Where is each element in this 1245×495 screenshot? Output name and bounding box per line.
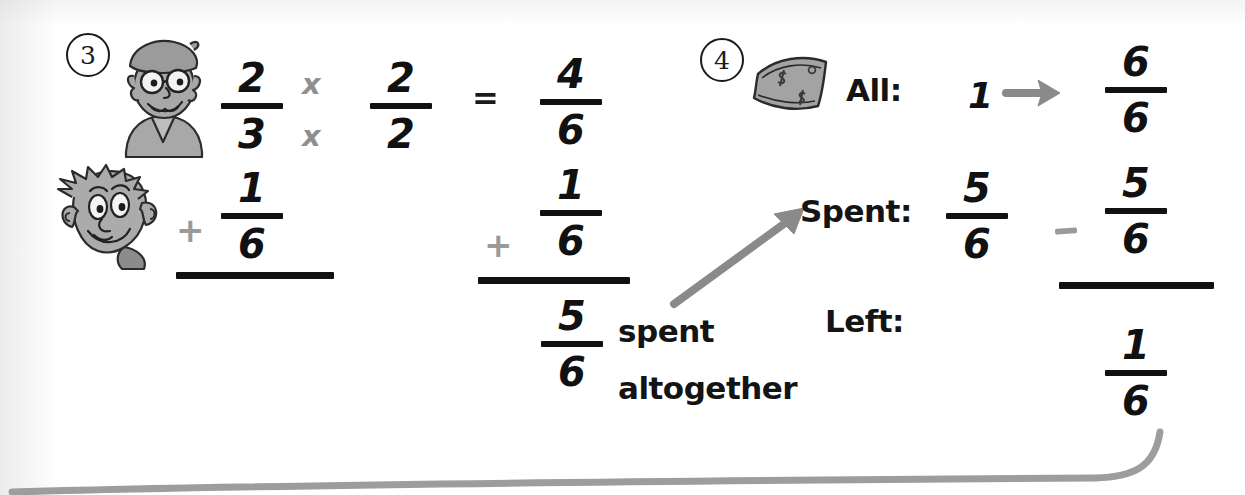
annotation-spent: spent [618,315,714,348]
plus-symbol-right: + [484,228,513,262]
fraction-numerator: 1 [1120,325,1152,365]
fraction-4-over-6: 4 6 [540,54,602,150]
fraction-bar [541,341,603,347]
fraction-bar [221,103,283,109]
fraction-denominator: 6 [961,224,993,264]
worksheet-page: 3 [0,0,1245,495]
curved-gray-swoosh-line [0,400,1245,495]
fraction-sum-5-over-6: 5 6 [541,296,603,392]
fraction-2-over-3: 2 3 [221,58,283,154]
scan-noise-top [0,0,1245,26]
multiply-symbol-bottom: x [302,122,321,151]
fraction-2-over-2: 2 2 [370,58,432,154]
fraction-numerator: 2 [236,58,268,98]
fraction-1-over-6-right: 1 6 [540,165,602,261]
fraction-bar [540,210,602,216]
fraction-denominator: 2 [385,114,417,154]
fraction-bar [540,99,602,105]
fraction-denominator: 6 [236,224,268,264]
fraction-1-over-6-left: 1 6 [221,168,283,264]
fraction-numerator: 1 [236,168,268,208]
fraction-6-over-6: 6 6 [1105,42,1167,138]
fraction-bar [221,213,283,219]
fraction-bar [1105,208,1167,214]
fraction-denominator: 6 [555,221,587,261]
label-left: Left: [825,305,904,338]
problem-number-3-label: 3 [80,43,96,68]
label-all: All: [846,74,902,107]
label-spent: Spent: [800,195,912,228]
fraction-denominator: 6 [556,352,588,392]
problem-number-4: 4 [700,38,744,82]
fraction-bar [946,213,1008,219]
sum-rule-left [176,272,334,279]
plus-symbol-left: + [176,213,205,247]
right-arrow-icon [1004,72,1068,112]
fraction-subtract-5-over-6: 5 6 [1105,163,1167,259]
problem-number-3: 3 [66,33,110,77]
fraction-numerator: 4 [555,54,587,94]
fraction-numerator: 6 [1120,42,1152,82]
equals-symbol: = [472,82,499,114]
annotation-arrow-icon [668,198,818,310]
fraction-numerator: 5 [961,168,993,208]
fraction-denominator: 3 [236,114,268,154]
difference-rule [1059,282,1214,289]
fraction-denominator: 6 [555,110,587,150]
fraction-bar [1105,87,1167,93]
fraction-bar [1105,370,1167,376]
sum-rule-right [478,277,630,284]
fraction-numerator: 2 [385,58,417,98]
fraction-bar [370,103,432,109]
fraction-denominator: 6 [1120,98,1152,138]
fraction-numerator: 5 [1120,163,1152,203]
fraction-numerator: 5 [556,296,588,336]
minus-symbol [1055,227,1077,235]
multiply-symbol-top: x [302,70,321,99]
fraction-numerator: 1 [555,165,587,205]
fraction-denominator: 6 [1120,219,1152,259]
bearded-man-with-beret-icon [112,30,214,158]
problem-number-4-label: 4 [714,48,730,73]
dollar-bill-icon [748,50,834,116]
bald-man-big-ears-icon [52,163,170,275]
value-one: 1 [968,78,993,114]
fraction-spent-5-over-6: 5 6 [946,168,1008,264]
